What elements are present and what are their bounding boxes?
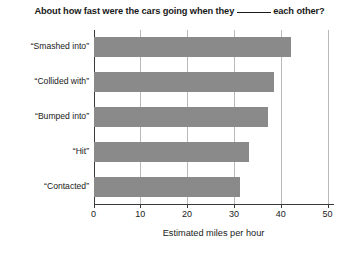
plot-area [94,30,328,204]
y-axis-category-labels: “Smashed into”“Collided with”“Bumped int… [0,0,89,259]
x-axis-tick-label: 10 [125,209,155,219]
x-axis-tick [281,204,282,208]
x-axis-tick [234,204,235,208]
y-axis-category-label: “Smashed into” [1,41,89,51]
y-axis-category-label: “Hit” [1,146,89,156]
x-gridline [328,30,329,204]
x-axis-title: Estimated miles per hour [94,228,334,238]
bar [94,177,240,197]
x-axis-tick-label: 20 [172,209,202,219]
y-axis-category-label: “Collided with” [1,76,89,86]
x-axis-tick-label: 40 [266,209,296,219]
bar [94,107,269,127]
bar [94,72,275,92]
x-axis-tick-label: 30 [219,209,249,219]
x-axis-tick [187,204,188,208]
x-axis-tick [94,204,95,208]
bar [94,142,250,162]
chart-title-blank [237,12,271,13]
bar-chart-figure: About how fast were the cars going when … [0,0,359,259]
x-axis-tick-label: 50 [313,209,343,219]
bar [94,37,291,57]
x-axis-tick [328,204,329,208]
x-axis-line [94,204,334,205]
x-axis-tick-label: 0 [79,209,109,219]
x-axis-tick [140,204,141,208]
y-axis-category-label: “Contacted” [1,181,89,191]
y-axis-category-label: “Bumped into” [1,111,89,121]
chart-title-suffix: each other? [273,6,324,16]
